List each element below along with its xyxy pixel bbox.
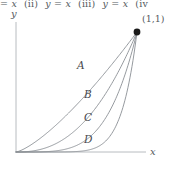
curve-label-c: C [84,112,92,123]
x-axis-label: x [150,147,156,157]
point-label-1-1: (1,1) [142,14,165,24]
curves-group [16,32,137,152]
figure-root: = x(ii)y = x(iii)y = x(iv y x (1,1) ABCD [0,0,176,170]
curve-label-b: B [84,89,92,100]
y-axis-label: y [11,9,17,19]
curve-label-a: A [77,60,85,71]
curve-c [16,32,137,152]
axes-group [16,22,146,152]
curve-label-d: D [84,134,92,145]
point-marker-1-1 [134,29,141,36]
